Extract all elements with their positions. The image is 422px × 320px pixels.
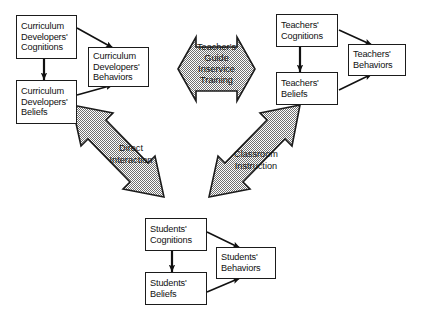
- node-line: Cognitions: [281, 31, 334, 42]
- node-line: Beliefs: [150, 289, 203, 300]
- node-teachers-beliefs[interactable]: Teachers' Beliefs: [276, 72, 338, 105]
- node-teachers-cognitions[interactable]: Teachers' Cognitions: [276, 14, 338, 47]
- node-line: Students': [221, 252, 272, 263]
- direct-interaction-arrow: [72, 105, 164, 197]
- node-line: Developers': [21, 97, 73, 108]
- connector-teachers-beliefs-to-behaviors: [339, 74, 372, 90]
- node-students-behaviors[interactable]: Students' Behaviors: [216, 247, 276, 279]
- connector-teachers-cognitions-to-behaviors: [339, 30, 372, 45]
- node-line: Cognitions: [150, 235, 203, 246]
- node-line: Curriculum: [21, 21, 73, 32]
- connector-students-cognitions-to-behaviors: [207, 232, 240, 248]
- connector-curriculum-cognitions-to-behaviors: [77, 28, 113, 48]
- node-line: Developers': [93, 62, 145, 73]
- node-line: Cognitions: [21, 42, 73, 53]
- node-line: Teachers': [281, 78, 334, 89]
- node-line: Beliefs: [21, 107, 73, 118]
- node-line: Behaviors: [93, 72, 145, 83]
- classroom-instruction-arrow: [209, 105, 300, 197]
- node-line: Curriculum: [93, 51, 145, 62]
- node-line: Students': [150, 278, 203, 289]
- connector-students-beliefs-to-behaviors: [207, 278, 240, 292]
- node-line: Students': [150, 224, 203, 235]
- node-curriculum-developers-cognitions[interactable]: Curriculum Developers' Cognitions: [16, 15, 77, 59]
- node-teachers-behaviors[interactable]: Teachers' Behaviors: [348, 44, 406, 76]
- node-line: Developers': [21, 32, 73, 43]
- node-line: Teachers': [353, 49, 402, 60]
- node-students-beliefs[interactable]: Students' Beliefs: [145, 272, 207, 305]
- node-curriculum-developers-behaviors[interactable]: Curriculum Developers' Behaviors: [88, 47, 149, 87]
- node-line: Behaviors: [353, 60, 402, 71]
- node-students-cognitions[interactable]: Students' Cognitions: [145, 218, 207, 251]
- node-line: Curriculum: [21, 86, 73, 97]
- teachers-guide-inservice-training-arrow: [178, 37, 255, 101]
- node-line: Beliefs: [281, 89, 334, 100]
- node-curriculum-developers-beliefs[interactable]: Curriculum Developers' Beliefs: [16, 80, 77, 124]
- node-line: Behaviors: [221, 263, 272, 274]
- diagram-root: Curriculum Developers' Cognitions Curric…: [0, 0, 422, 320]
- node-line: Teachers': [281, 20, 334, 31]
